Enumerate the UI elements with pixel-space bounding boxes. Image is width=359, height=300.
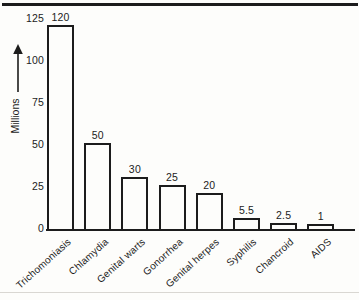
y-tick-label: 100: [12, 54, 44, 66]
bar: [159, 185, 186, 229]
y-tick-label: 25: [12, 180, 44, 192]
bar: [233, 218, 260, 229]
bar-value-label: 20: [189, 179, 229, 191]
bar-value-label: 30: [115, 163, 155, 175]
bar: [121, 177, 148, 229]
y-tick-label: 0: [12, 222, 44, 234]
top-horizontal-rule: [2, 3, 358, 6]
y-tick-label: 50: [12, 138, 44, 150]
y-tick-label: 75: [12, 96, 44, 108]
category-label: Trichomoniasis: [14, 236, 73, 291]
bar-value-label: 5.5: [227, 204, 267, 216]
bar: [84, 143, 111, 229]
category-label: AIDS: [308, 236, 333, 260]
bar-value-label: 120: [41, 11, 81, 23]
y-tick-label: 125: [12, 12, 44, 24]
bar: [196, 193, 223, 229]
std-prevalence-bar-chart: Millions 0255075100125 120503025205.52.5…: [0, 0, 359, 300]
category-label: Chancroid: [253, 236, 296, 276]
bar-value-label: 25: [152, 171, 192, 183]
x-axis-baseline: [46, 229, 355, 231]
category-label: Syphilis: [225, 236, 259, 268]
bottom-horizontal-rule: [0, 292, 359, 293]
bar-value-label: 2.5: [264, 209, 304, 221]
bar-value-label: 1: [301, 210, 341, 222]
bar-value-label: 50: [78, 129, 118, 141]
bar: [47, 25, 74, 229]
